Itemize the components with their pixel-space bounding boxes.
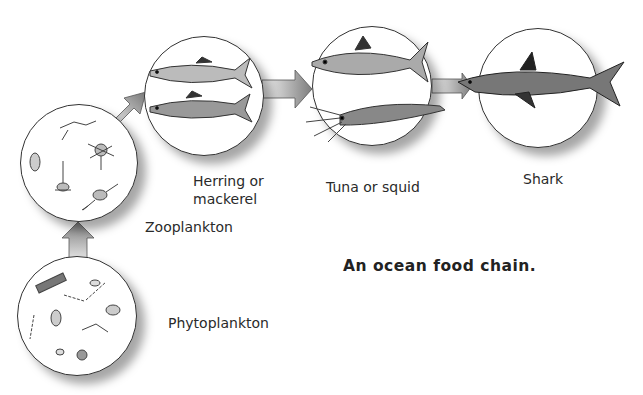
zooplankton-illustration: [30, 121, 118, 210]
diagram-title: An ocean food chain.: [343, 257, 536, 275]
label-zooplankton: Zooplankton: [145, 218, 233, 236]
label-shark: Shark: [523, 170, 563, 188]
food-chain-diagram: Herring or mackerel Tuna or squid Shark …: [0, 0, 643, 395]
shark-illustration: [458, 52, 624, 108]
tuna-squid-illustration: [306, 36, 445, 142]
herring-mackerel-illustration: [150, 57, 252, 122]
label-tuna-squid: Tuna or squid: [326, 178, 420, 196]
label-herring: Herring or mackerel: [193, 172, 264, 208]
label-phytoplankton: Phytoplankton: [168, 314, 269, 332]
phytoplankton-illustration: [30, 273, 120, 360]
illustrations-layer: [0, 0, 643, 395]
label-herring-line1: Herring or: [193, 172, 264, 190]
label-herring-line2: mackerel: [193, 190, 264, 208]
